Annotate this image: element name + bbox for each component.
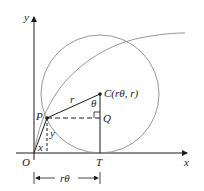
point-c <box>98 92 102 96</box>
right-angle-marker <box>94 112 100 118</box>
point-p-label: P <box>35 110 43 122</box>
x-axis-label: x <box>183 156 189 168</box>
y-axis-label: y <box>23 11 29 23</box>
point-t-label: T <box>96 156 103 168</box>
y-coord-label: y <box>49 127 55 139</box>
angle-label: θ <box>91 97 97 109</box>
origin-label: O <box>22 156 30 168</box>
cycloid-diagram: y x O T P C(rθ, r) Q r θ x y rθ <box>0 0 204 191</box>
point-q-label: Q <box>103 112 111 124</box>
arc-length-label: rθ <box>60 172 70 184</box>
radius-label: r <box>70 93 75 105</box>
point-c-label: C(rθ, r) <box>104 87 138 100</box>
x-coord-label: x <box>37 141 43 153</box>
point-p <box>45 116 49 120</box>
